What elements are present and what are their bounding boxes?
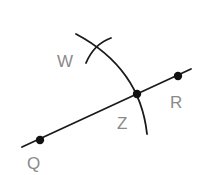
geometry-diagram: W Z R Q [0, 0, 203, 175]
label-r: R [170, 93, 182, 112]
point-r [174, 72, 182, 80]
label-w: W [57, 52, 73, 71]
point-z [133, 90, 141, 98]
label-q: Q [27, 154, 40, 173]
point-q [36, 136, 44, 144]
construction-arc-main [76, 34, 147, 134]
line-qr [22, 69, 191, 147]
label-z: Z [117, 114, 127, 133]
